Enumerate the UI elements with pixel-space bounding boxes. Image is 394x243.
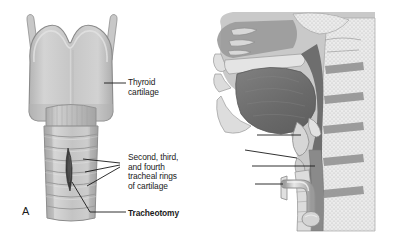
panel-b: Thyroid cartilage Larynx Esophagus Trach… [197, 0, 394, 243]
label-tracheal-rings: Second, third, and fourth tracheal rings… [128, 153, 178, 191]
label-thyroid-cartilage-a: Thyroid cartilage [128, 78, 159, 97]
label-tracheotomy: Tracheotomy [128, 209, 179, 219]
panel-a: Thyroid cartilage Second, third, and fou… [0, 0, 197, 243]
panel-b-illustration [197, 0, 394, 243]
figure-tracheotomy: Thyroid cartilage Second, third, and fou… [0, 0, 394, 243]
panel-letter-a: A [22, 205, 30, 217]
